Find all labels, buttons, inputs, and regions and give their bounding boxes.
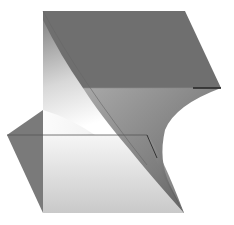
left-wedge	[7, 110, 43, 213]
figure-canvas: 3D folded surface (cusp fold)	[0, 0, 234, 225]
fold-surface-diagram	[0, 0, 234, 225]
